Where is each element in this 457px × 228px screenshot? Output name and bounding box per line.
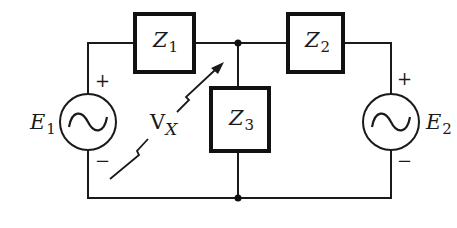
e2-symbol: E [426, 110, 441, 134]
junction-dot-top [235, 40, 242, 47]
e2-plus-sign: + [397, 70, 412, 88]
vx-subscript: X [165, 119, 177, 139]
vx-symbol: V [150, 110, 165, 134]
e1-subscript: 1 [46, 120, 56, 138]
circuit-diagram: Z1 Z2 Z3 E1 E2 + − + − VX [0, 0, 457, 228]
wire-right-top [343, 43, 391, 94]
z1-subscript: 1 [169, 38, 179, 56]
z2-label: Z2 [305, 30, 330, 55]
z2-subscript: 2 [321, 38, 331, 56]
e1-minus-sign: − [95, 152, 110, 170]
z1-symbol: Z [153, 28, 168, 52]
junction-dot-bottom [235, 195, 242, 202]
z1-label: Z1 [153, 30, 178, 55]
z3-symbol: Z [229, 106, 244, 130]
e1-symbol: E [30, 110, 45, 134]
wire-bottom [88, 150, 391, 198]
z3-subscript: 3 [245, 116, 255, 134]
e2-minus-sign: − [397, 152, 412, 170]
e2-label: E2 [426, 112, 452, 137]
e2-subscript: 2 [442, 120, 452, 138]
vx-label: VX [150, 112, 177, 138]
vx-arrow-lower [110, 139, 148, 179]
e1-label: E1 [30, 112, 56, 137]
e1-plus-sign: + [95, 72, 110, 90]
z2-symbol: Z [305, 28, 320, 52]
z3-label: Z3 [229, 108, 254, 133]
